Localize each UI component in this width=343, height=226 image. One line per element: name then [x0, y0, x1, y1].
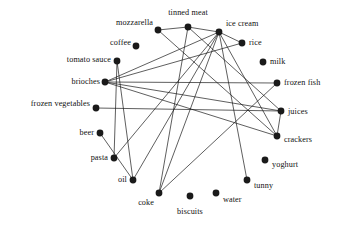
node-label-crackers: crackers [284, 136, 312, 144]
graph-node-tunny[interactable] [244, 177, 251, 184]
node-label-tomato_sauce: tomato sauce [67, 56, 111, 64]
graph-node-tomato_sauce[interactable] [114, 58, 121, 65]
graph-edge [159, 32, 219, 193]
node-label-water: water [223, 196, 242, 204]
node-label-rice: rice [249, 39, 262, 47]
graph-node-beer[interactable] [97, 130, 104, 137]
graph-node-frozen_fish[interactable] [274, 80, 281, 87]
graph-node-water[interactable] [213, 190, 220, 197]
graph-node-rice[interactable] [239, 40, 246, 47]
node-label-oil: oil [118, 176, 127, 184]
node-label-beer: beer [80, 129, 95, 137]
graph-edge [117, 61, 133, 180]
node-label-milk: milk [270, 58, 285, 66]
node-label-juices: juices [288, 108, 308, 116]
graph-node-coffee[interactable] [133, 43, 140, 50]
node-label-coke: coke [138, 199, 154, 207]
graph-node-milk[interactable] [260, 59, 267, 66]
node-label-frozen_fish: frozen fish [284, 79, 320, 87]
graph-node-crackers[interactable] [274, 133, 281, 140]
graph-node-yoghurt[interactable] [262, 157, 269, 164]
graph-node-mozzarella[interactable] [155, 27, 162, 34]
graph-node-pasta[interactable] [111, 155, 118, 162]
node-label-tunny: tunny [254, 182, 273, 190]
node-label-biscuits: biscuits [177, 208, 203, 216]
graph-edge [105, 43, 242, 82]
node-label-tinned_meat: tinned meat [168, 9, 208, 17]
graph-node-oil[interactable] [130, 177, 137, 184]
graph-edge [159, 83, 277, 193]
graph-edge [133, 32, 219, 180]
graph-node-coke[interactable] [156, 190, 163, 197]
edge-layer [96, 27, 281, 193]
graph-canvas: mozzarellatinned meatice creamricecoffee… [0, 0, 343, 226]
node-layer [93, 24, 285, 200]
graph-node-ice_cream[interactable] [216, 29, 223, 36]
graph-node-tinned_meat[interactable] [185, 24, 192, 31]
graph-edge [277, 111, 281, 136]
graph-edge [114, 61, 117, 158]
node-label-ice_cream: ice cream [226, 20, 259, 28]
graph-node-biscuits[interactable] [187, 193, 194, 200]
graph-node-juices[interactable] [278, 108, 285, 115]
node-label-pasta: pasta [91, 154, 108, 162]
graph-node-frozen_vegetables[interactable] [93, 105, 100, 112]
node-label-coffee: coffee [110, 39, 131, 47]
graph-edge [105, 82, 277, 83]
node-label-mozzarella: mozzarella [116, 19, 153, 27]
graph-edge [158, 27, 188, 30]
node-label-brioches: brioches [71, 78, 100, 86]
node-label-yoghurt: yoghurt [272, 161, 298, 169]
graph-node-brioches[interactable] [102, 79, 109, 86]
graph-edge [114, 32, 219, 158]
node-label-frozen_vegetables: frozen vegetables [31, 100, 90, 108]
